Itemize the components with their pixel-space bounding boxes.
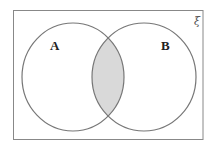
venn-diagram: A B ξ xyxy=(0,0,215,144)
set-b-label: B xyxy=(161,38,170,53)
set-a-label: A xyxy=(50,38,60,53)
universal-set-symbol: ξ xyxy=(194,15,201,28)
